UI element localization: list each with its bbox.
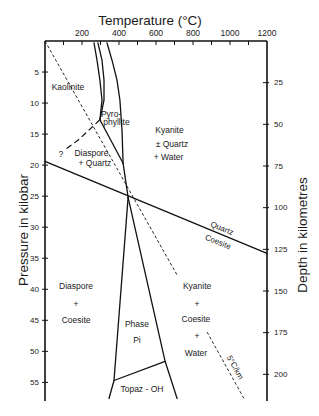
curve-pyrophyllite-kyanite [107, 43, 123, 163]
field-label: Phase [125, 319, 149, 329]
y2-tick-label: 125 [274, 245, 288, 254]
y2-tick-label: 100 [274, 203, 288, 212]
y-tick-label: 35 [30, 254, 39, 263]
field-label: Kaolinite [52, 82, 85, 92]
field-label: Kyanite [183, 281, 212, 291]
y-axis-title: Pressure in kilobar [16, 174, 31, 286]
y2-tick-label: 50 [274, 120, 283, 129]
field-labels: KaolinitePyro-phylliteKyanite± Quartz+ W… [52, 82, 246, 394]
curve-diaspore-coesite-phase-pi [109, 197, 128, 398]
x-axis-title: Temperature (°C) [98, 13, 202, 28]
curve-phase-pi-kyanite-coesite-water [128, 197, 177, 398]
axes [45, 41, 267, 401]
x-tick-label: 800 [186, 28, 200, 38]
curve-quartz-coesite [45, 161, 267, 253]
y2-tick-label: 75 [274, 162, 283, 171]
y-tick-label: 20 [30, 161, 39, 170]
y-tick-label: 50 [30, 347, 39, 356]
y-tick-label: 40 [30, 285, 39, 294]
field-label: Water [185, 348, 208, 358]
boundary-label: 5°C/km [225, 354, 246, 382]
phase-diagram-chart: Temperature (°C) Pressure in kilobar Dep… [0, 0, 319, 416]
y2-tick-label: 25 [274, 78, 283, 87]
field-label: Coesite [62, 315, 91, 325]
field-label: ? [59, 149, 64, 159]
y-tick-label: 10 [30, 99, 39, 108]
y2-tick-label: 175 [274, 328, 288, 337]
field-label: + [195, 299, 200, 309]
y-tick-label: 5 [35, 68, 40, 77]
x-tick-label: 400 [112, 28, 126, 38]
field-label: + [195, 331, 200, 341]
y2-tick-label: 200 [274, 370, 288, 379]
x-tick-label: 1200 [258, 28, 277, 38]
y-tick-label: 15 [30, 130, 39, 139]
x-tick-label: 1000 [221, 28, 240, 38]
y-tick-label: 45 [30, 316, 39, 325]
field-label: Coesite [182, 314, 211, 324]
field-label: Diaspore [74, 148, 108, 158]
field-label: Topaz - OH [120, 384, 163, 394]
field-label: ± Quartz [156, 139, 189, 149]
phase-boundaries [45, 41, 267, 400]
field-label: + [74, 299, 79, 309]
field-label: Pi [133, 335, 141, 345]
curve-phase-pi-topaz-oh [114, 361, 165, 380]
y-tick-label: 55 [30, 378, 39, 387]
x-tick-label: 200 [75, 28, 89, 38]
y-tick-label: 30 [30, 223, 39, 232]
field-label: Diaspore [59, 281, 93, 291]
y-tick-label: 25 [30, 192, 39, 201]
curve-kaolinite-diaspore-quartz [64, 120, 100, 150]
x-tick-label: 600 [149, 28, 163, 38]
field-label: + Water [154, 152, 184, 162]
y2-tick-label: 150 [274, 287, 288, 296]
curve-diaspore-quartz-kyanite [123, 163, 128, 197]
field-label: phyllite [103, 117, 130, 127]
field-label: + Quartz [79, 158, 112, 168]
field-label: Kyanite [155, 125, 184, 135]
y2-axis-title: Depth in kilometres [295, 177, 310, 293]
axis-ticks [42, 41, 269, 382]
